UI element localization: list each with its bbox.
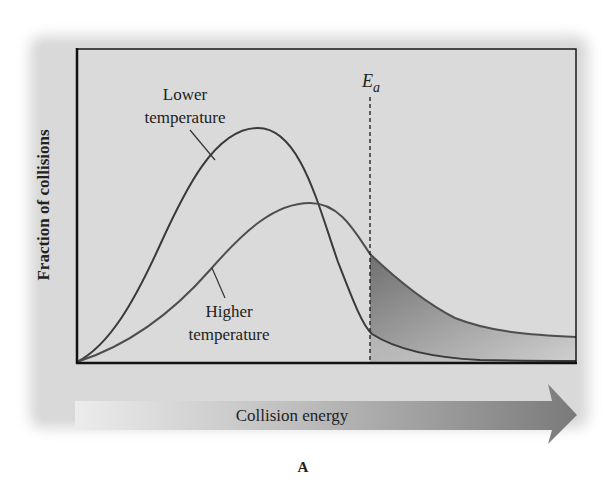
lower-temperature-label-line2: temperature: [144, 108, 225, 127]
lower-temperature-label-line1: Lower: [163, 85, 208, 104]
higher-temperature-label-line2: temperature: [188, 325, 269, 344]
x-axis-label: Collision energy: [236, 406, 349, 425]
collision-energy-distribution-figure: Ea Lower temperature Higher temperature …: [0, 0, 611, 492]
y-axis-label: Fraction of collisions: [34, 129, 53, 280]
higher-temperature-label-line1-visible: Higher: [205, 302, 253, 321]
panel-label: A: [298, 459, 309, 475]
